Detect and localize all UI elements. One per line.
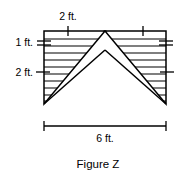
upper-left-height-label: 1 ft. [15,36,33,48]
figure-z-drawing: 2 ft. 1 ft. 2 ft. 6 ft. Figure Z [0,0,196,178]
top-width-label: 2 ft. [59,10,77,22]
bottom-width-label: 6 ft. [96,132,114,144]
figure-caption: Figure Z [77,158,120,170]
figure-container: 2 ft. 1 ft. 2 ft. 6 ft. Figure Z [0,0,196,178]
lower-left-height-label: 2 ft. [15,66,33,78]
